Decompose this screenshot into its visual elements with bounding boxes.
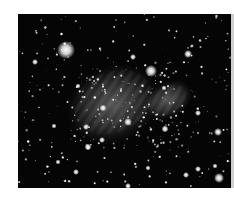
- faint-star: [86, 110, 87, 111]
- faint-star: [123, 147, 125, 149]
- faint-star: [135, 166, 137, 168]
- faint-star: [25, 111, 27, 113]
- faint-star: [165, 92, 167, 94]
- nebula-layer: [53, 49, 199, 158]
- faint-star: [134, 163, 136, 165]
- faint-star: [186, 74, 188, 76]
- faint-star: [170, 150, 171, 151]
- bright-star: [100, 105, 107, 112]
- faint-star: [131, 106, 133, 108]
- faint-star: [183, 61, 185, 63]
- faint-star: [181, 145, 183, 147]
- faint-star: [191, 90, 192, 91]
- faint-star: [67, 159, 68, 160]
- faint-star: [50, 156, 51, 157]
- faint-star: [97, 78, 99, 80]
- faint-star: [173, 111, 175, 113]
- faint-star: [75, 141, 76, 142]
- faint-star: [132, 35, 134, 37]
- faint-star: [194, 95, 196, 97]
- faint-star: [186, 125, 188, 127]
- faint-star: [128, 50, 130, 52]
- faint-star: [18, 181, 20, 183]
- faint-star: [86, 80, 87, 81]
- faint-star: [170, 116, 172, 118]
- faint-star: [103, 157, 105, 159]
- faint-star: [159, 156, 161, 158]
- faint-star: [67, 56, 68, 57]
- faint-star: [145, 123, 146, 124]
- faint-star: [126, 138, 128, 140]
- faint-star: [124, 22, 126, 24]
- faint-star: [195, 122, 196, 123]
- faint-star: [207, 111, 208, 112]
- faint-star: [82, 91, 84, 93]
- faint-star: [130, 124, 131, 125]
- faint-star: [28, 150, 29, 151]
- faint-star: [150, 128, 152, 130]
- faint-star: [205, 22, 206, 23]
- faint-star: [94, 182, 96, 184]
- faint-star: [86, 144, 88, 146]
- faint-star: [75, 20, 77, 22]
- faint-star: [228, 49, 229, 50]
- faint-star: [215, 16, 217, 18]
- faint-star: [168, 29, 170, 31]
- faint-star: [192, 91, 193, 92]
- faint-star: [34, 120, 35, 121]
- faint-star: [90, 144, 92, 146]
- faint-star: [221, 20, 222, 21]
- faint-star: [115, 99, 116, 100]
- faint-star: [91, 87, 93, 89]
- faint-star: [134, 100, 135, 101]
- faint-star: [30, 82, 31, 83]
- faint-star: [210, 132, 212, 134]
- faint-star: [79, 90, 81, 92]
- faint-star: [152, 111, 154, 113]
- faint-star: [95, 115, 97, 117]
- faint-star: [123, 118, 124, 119]
- faint-star: [90, 49, 92, 51]
- faint-star: [62, 84, 64, 86]
- faint-star: [144, 64, 146, 66]
- faint-star: [80, 73, 82, 75]
- faint-star: [160, 81, 162, 83]
- faint-star: [197, 132, 199, 134]
- faint-star: [226, 129, 228, 131]
- faint-star: [36, 52, 38, 54]
- faint-star: [168, 76, 170, 78]
- faint-star: [106, 143, 107, 144]
- faint-star: [136, 134, 138, 136]
- faint-star: [63, 180, 64, 181]
- faint-star: [87, 49, 89, 51]
- faint-star: [227, 160, 228, 161]
- faint-star: [94, 83, 95, 84]
- faint-star: [179, 156, 180, 157]
- faint-star: [174, 37, 176, 39]
- faint-star: [47, 57, 49, 59]
- faint-star: [92, 76, 94, 78]
- faint-star: [88, 126, 90, 128]
- faint-star: [120, 90, 122, 92]
- faint-star: [176, 155, 178, 157]
- faint-star: [107, 118, 109, 120]
- faint-star: [160, 139, 161, 140]
- faint-star: [94, 96, 96, 98]
- faint-star: [149, 127, 151, 129]
- faint-star: [211, 78, 212, 79]
- faint-star: [199, 176, 200, 177]
- bright-star: [57, 41, 75, 59]
- faint-star: [46, 165, 48, 167]
- faint-star: [148, 106, 149, 107]
- faint-star: [35, 30, 36, 31]
- bright-star: [125, 183, 131, 188]
- faint-star: [90, 140, 91, 141]
- faint-star: [95, 122, 96, 123]
- faint-star: [91, 82, 93, 84]
- faint-star: [142, 112, 144, 114]
- faint-star: [138, 135, 140, 137]
- faint-star: [36, 32, 38, 34]
- faint-star: [63, 43, 65, 45]
- faint-star: [92, 69, 93, 70]
- faint-star: [227, 33, 229, 35]
